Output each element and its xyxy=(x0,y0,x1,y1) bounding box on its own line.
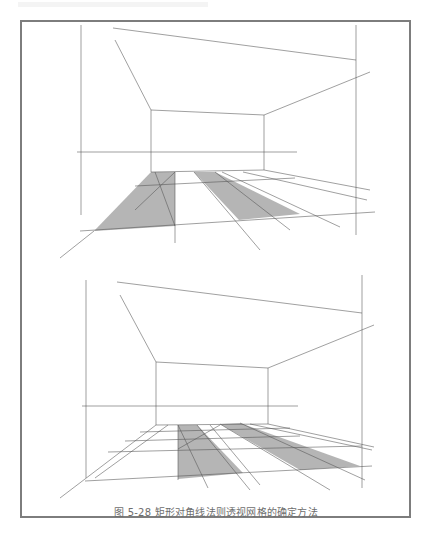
perspective-line xyxy=(115,40,151,110)
perspective-grid-step-2 xyxy=(60,275,374,498)
perspective-line xyxy=(117,282,362,313)
shaded-floor-region xyxy=(178,425,243,479)
shaded-floor-region xyxy=(194,172,300,220)
perspective-line xyxy=(60,425,156,498)
perspective-line xyxy=(95,425,168,478)
perspective-line xyxy=(113,28,356,60)
perspective-drawings xyxy=(0,0,432,543)
figure-caption: 图 5-28 矩形对角线法则透视网格的确定方法 xyxy=(0,504,432,519)
perspective-line xyxy=(120,295,156,362)
perspective-line xyxy=(264,72,370,115)
perspective-line xyxy=(60,231,94,258)
perspective-line xyxy=(151,170,264,172)
perspective-line xyxy=(156,362,268,368)
perspective-line xyxy=(151,110,264,115)
perspective-line xyxy=(108,446,362,452)
perspective-line xyxy=(268,325,374,368)
perspective-grid-step-1 xyxy=(60,25,375,258)
shaded-floor-region xyxy=(94,172,175,231)
